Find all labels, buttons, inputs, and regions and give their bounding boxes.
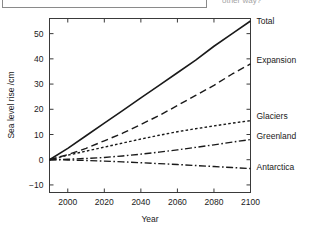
series-labels-group: TotalExpansionGlaciersGreenlandAntarctic… <box>257 16 297 172</box>
x-tick-label: 2040 <box>131 197 150 207</box>
y-tick-label: 30 <box>34 79 44 89</box>
series-label-expansion: Expansion <box>257 55 297 65</box>
y-tick-label: 50 <box>34 29 44 39</box>
y-axis-title: Sea level rise /cm <box>6 71 16 138</box>
y-tick-label: 40 <box>34 54 44 64</box>
series-label-total: Total <box>257 16 275 26</box>
series-line-total <box>50 21 251 160</box>
y-axis-ticks: −1001020304050 <box>29 29 250 190</box>
series-line-expansion <box>50 64 251 160</box>
y-tick-label: 0 <box>39 155 44 165</box>
y-tick-label: 10 <box>34 130 44 140</box>
series-label-greenland: Greenland <box>257 131 297 141</box>
series-label-antarctica: Antarctica <box>257 162 295 172</box>
x-tick-label: 2080 <box>204 197 223 207</box>
series-line-antarctica <box>50 160 251 169</box>
x-tick-label: 2060 <box>168 197 187 207</box>
x-axis-title: Year <box>141 214 158 224</box>
x-tick-label: 2100 <box>241 197 260 207</box>
axes-frame <box>50 19 251 193</box>
plot-frame <box>50 19 251 193</box>
x-tick-label: 2020 <box>95 197 114 207</box>
data-series-group <box>50 21 251 169</box>
series-label-glaciers: Glaciers <box>257 111 288 121</box>
y-tick-label: 20 <box>34 104 44 114</box>
x-tick-label: 2000 <box>58 197 77 207</box>
y-tick-label: −10 <box>29 180 44 190</box>
sea-level-rise-chart: −1001020304050 200020202040206020802100 … <box>0 0 314 232</box>
chart-canvas: −1001020304050 200020202040206020802100 … <box>0 0 314 232</box>
x-axis-ticks: 200020202040206020802100 <box>58 19 260 207</box>
series-line-greenland <box>50 140 251 160</box>
